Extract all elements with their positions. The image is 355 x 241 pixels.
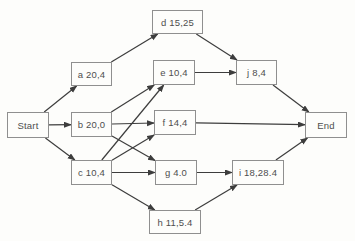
node-label-c: c 10,4 [78,167,105,178]
node-d: d 15,25 [152,10,203,34]
node-label-f: f 14,4 [163,117,188,128]
node-label-h: h 11,5.4 [157,217,192,228]
node-label-g: g 4.0 [165,167,187,178]
node-h: h 11,5.4 [149,210,201,234]
node-i: i 18,28.4 [232,160,284,185]
node-start: Start [7,112,49,138]
node-end: End [305,112,347,138]
node-g: g 4.0 [155,160,197,185]
node-c: c 10,4 [71,160,112,185]
node-label-b: b 20,0 [78,119,106,130]
activity-network-diagram: Starta 20,4b 20,0c 10,4d 15,25e 10,4f 14… [0,0,355,241]
node-label-start: Start [17,120,38,131]
node-label-end: End [317,120,335,131]
node-f: f 14,4 [154,110,196,135]
nodes-layer: Starta 20,4b 20,0c 10,4d 15,25e 10,4f 14… [0,0,355,241]
node-label-a: a 20,4 [78,69,106,80]
node-e: e 10,4 [153,60,195,85]
node-b: b 20,0 [71,112,112,137]
node-label-i: i 18,28.4 [239,167,277,178]
node-label-d: d 15,25 [161,17,194,28]
node-label-e: e 10,4 [160,67,188,78]
node-a: a 20,4 [71,62,112,86]
node-j: j 8,4 [236,60,277,85]
node-label-j: j 8,4 [247,67,266,78]
